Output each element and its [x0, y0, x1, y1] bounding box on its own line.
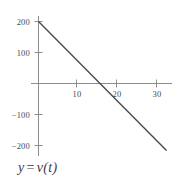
- y-tick-label-neg200: −200: [2, 141, 30, 151]
- x-tick-label-20: 20: [107, 89, 127, 99]
- figure-caption: y=v(t): [18, 160, 57, 176]
- y-tick-label-neg100: −100: [2, 110, 30, 120]
- caption-operator: =: [25, 160, 37, 175]
- y-tick-label-100: 100: [6, 48, 30, 58]
- caption-lhs: y: [18, 160, 25, 175]
- y-tick-label-200: 200: [6, 17, 30, 27]
- data-series-line: [39, 22, 167, 151]
- figure-container: 200 100 −100 −200 10 20 30 y=v(t): [0, 0, 178, 185]
- caption-rhs: v(t): [37, 160, 58, 175]
- x-tick-label-30: 30: [147, 89, 167, 99]
- x-tick-label-10: 10: [67, 89, 87, 99]
